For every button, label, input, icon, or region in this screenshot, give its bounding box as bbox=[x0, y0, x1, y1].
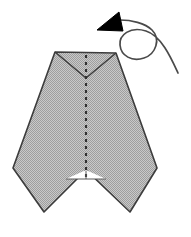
origami-diagram-svg bbox=[0, 0, 191, 237]
origami-diagram-container: Origami fold step diagram Shaded arrowhe… bbox=[0, 0, 191, 237]
